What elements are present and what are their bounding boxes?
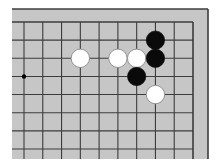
white-stone[interactable] [146, 85, 164, 103]
black-stone[interactable] [146, 31, 164, 49]
white-stone[interactable] [109, 49, 127, 67]
go-board [0, 0, 219, 167]
white-stone[interactable] [127, 49, 145, 67]
go-board-canvas[interactable] [0, 0, 219, 167]
black-stone[interactable] [127, 67, 145, 85]
white-stone[interactable] [71, 49, 89, 67]
black-stone[interactable] [146, 49, 164, 67]
board-surface [12, 9, 208, 159]
star-point [22, 74, 26, 78]
star-points [22, 74, 26, 78]
